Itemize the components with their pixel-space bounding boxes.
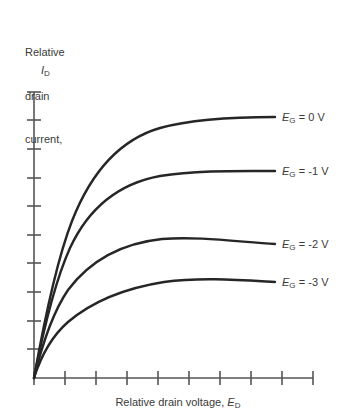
x-axis-symbol-letter: E [227,396,234,408]
curve-label-eg-minus3: EG = -3 V [282,276,329,290]
curve-label-1-value: = -1 V [296,165,329,177]
curve-label-2-value: = -2 V [296,238,329,250]
curve-label-eg-0: EG = 0 V [282,111,325,125]
y-axis-title-line2: drain [25,89,65,104]
x-axis-title-prefix: Relative drain voltage, [115,396,227,408]
curve-eg-minus1 [34,171,275,378]
x-axis-symbol-subscript: D [235,401,241,410]
y-axis-symbol: ID [41,64,50,78]
curve-eg-minus2 [34,238,275,378]
y-axis-title-line1: Relative [25,45,65,60]
x-axis-title: Relative drain voltage, ED [0,396,356,410]
curve-label-0-value: = 0 V [296,111,325,123]
figure-canvas: Relative drain current, ID Relative drai… [0,0,356,419]
y-axis-title-line3: current, [25,132,65,147]
curve-label-3-value: = -3 V [296,276,329,288]
curve-eg-minus3 [34,279,275,378]
y-axis-title: Relative drain current, [25,16,65,176]
curve-label-eg-minus1: EG = -1 V [282,165,329,179]
curve-label-eg-minus2: EG = -2 V [282,238,329,252]
y-axis-symbol-subscript: D [44,69,50,78]
